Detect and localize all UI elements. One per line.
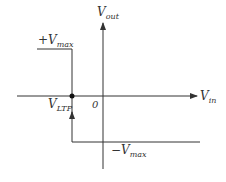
origin-label: 0 xyxy=(92,99,99,110)
threshold-point xyxy=(70,94,75,99)
x-axis-label: Vin xyxy=(200,89,216,105)
transfer-characteristic-diagram: Vout Vin 0 +Vmax −Vmax VLTP xyxy=(0,0,226,182)
positive-vmax-label: +Vmax xyxy=(38,33,74,49)
y-axis-label: Vout xyxy=(97,5,120,21)
vltp-label: VLTP xyxy=(48,97,73,113)
negative-vmax-label: −Vmax xyxy=(111,143,147,159)
